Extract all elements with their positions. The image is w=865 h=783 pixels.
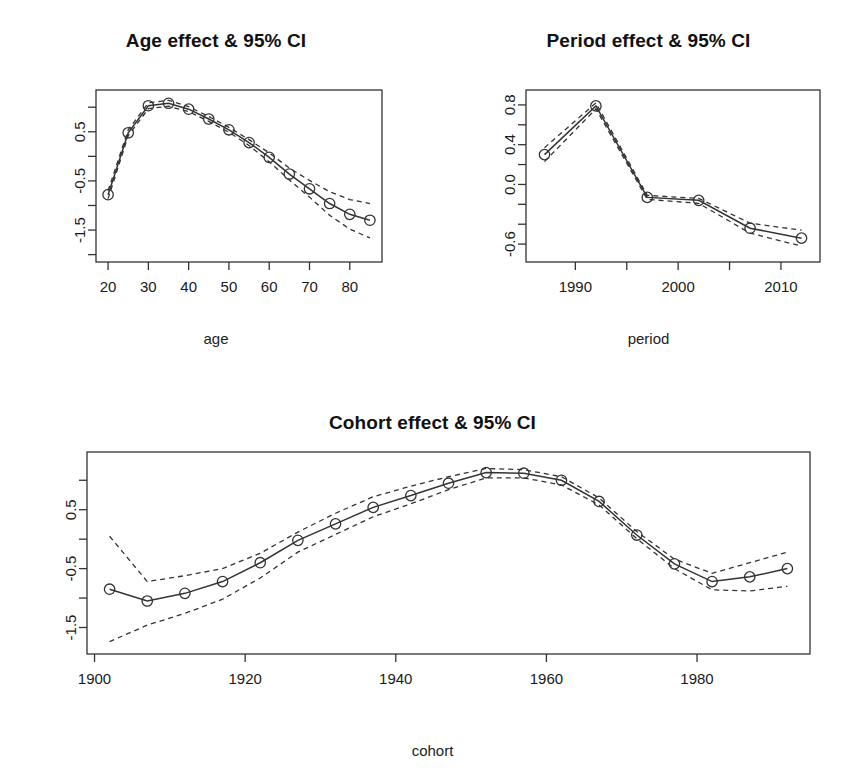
x-tick-label: 1940 (379, 670, 412, 687)
plot-frame (526, 90, 820, 262)
y-tick-label: 0.4 (502, 134, 519, 155)
series-lower-95-ci (545, 109, 802, 246)
series-estimate (110, 473, 788, 601)
age-xaxis-label: age (0, 330, 432, 347)
period-panel-title: Period effect & 95% CI (432, 30, 865, 52)
data-point-marker (104, 584, 114, 594)
x-tick-label: 60 (261, 278, 278, 295)
x-tick-label: 2010 (764, 278, 797, 295)
x-tick-label: 1900 (78, 670, 111, 687)
panel-age: Age effect & 95% CI 203040506070800.5-0.… (0, 0, 432, 390)
y-tick-label: -1.5 (72, 217, 89, 243)
age-plot-svg: 203040506070800.5-0.5-1.5 (0, 60, 432, 360)
x-tick-label: 80 (341, 278, 358, 295)
y-tick-label: -0.5 (72, 168, 89, 194)
age-panel-title: Age effect & 95% CI (0, 30, 432, 52)
panel-period: Period effect & 95% CI 1990200020100.80.… (432, 0, 865, 390)
y-tick-label: -1.5 (63, 615, 80, 641)
x-tick-label: 70 (301, 278, 318, 295)
y-tick-label: 0.0 (502, 174, 519, 195)
y-tick-label: 0.8 (502, 94, 519, 115)
x-tick-label: 40 (180, 278, 197, 295)
y-tick-label: 0.5 (63, 499, 80, 520)
x-tick-label: 1990 (559, 278, 592, 295)
series-lower-95-ci (110, 478, 788, 642)
y-tick-label: -0.5 (63, 556, 80, 582)
series-estimate (108, 103, 370, 220)
x-tick-label: 1980 (680, 670, 713, 687)
x-tick-label: 20 (100, 278, 117, 295)
series-upper-95-ci (108, 100, 370, 203)
x-tick-label: 2000 (661, 278, 694, 295)
y-tick-label: -0.6 (502, 231, 519, 257)
period-xaxis-label: period (432, 330, 865, 347)
x-tick-label: 1960 (530, 670, 563, 687)
period-plot-svg: 1990200020100.80.40.0-0.6 (432, 60, 865, 360)
x-tick-label: 30 (140, 278, 157, 295)
series-lower-95-ci (108, 106, 370, 238)
x-tick-label: 50 (221, 278, 238, 295)
y-tick-label: 0.5 (72, 121, 89, 142)
cohort-plot-svg: 190019201940196019800.5-0.5-1.5 (0, 442, 865, 742)
series-upper-95-ci (110, 468, 788, 581)
plot-frame (87, 452, 810, 654)
panel-cohort: Cohort effect & 95% CI 19001920194019601… (0, 390, 865, 783)
series-estimate (545, 106, 802, 238)
cohort-xaxis-label: cohort (0, 742, 865, 759)
data-point-marker (539, 149, 549, 159)
x-tick-label: 1920 (228, 670, 261, 687)
cohort-panel-title: Cohort effect & 95% CI (0, 412, 865, 434)
